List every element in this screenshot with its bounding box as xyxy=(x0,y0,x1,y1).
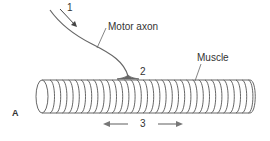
motor-axon-label: Motor axon xyxy=(108,22,158,32)
step-1-label: 1 xyxy=(67,3,73,13)
muscle-fiber xyxy=(36,80,255,113)
step-2-label: 2 xyxy=(140,67,146,77)
motor-axon-leader xyxy=(97,28,106,48)
end-plate xyxy=(117,75,139,79)
panel-label: A xyxy=(12,108,19,118)
muscle-label: Muscle xyxy=(197,53,229,63)
muscle-leader xyxy=(195,64,201,81)
motor-axon-line xyxy=(50,10,128,76)
step-3-label: 3 xyxy=(140,119,146,129)
